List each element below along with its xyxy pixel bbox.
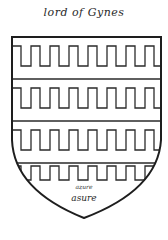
embattled-line-1 — [12, 46, 161, 66]
tincture-note-small: azure — [0, 183, 168, 190]
shield-outline — [12, 37, 161, 218]
embattled-line-4 — [12, 166, 161, 180]
embattled-line-2 — [12, 88, 161, 108]
tincture-note: asure — [0, 193, 168, 203]
embattled-line-3 — [12, 130, 161, 150]
